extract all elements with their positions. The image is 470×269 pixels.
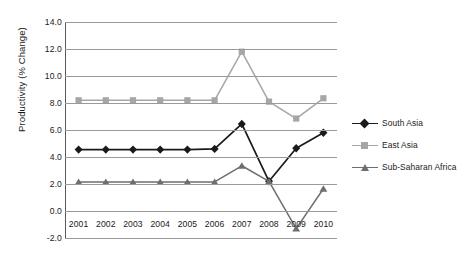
series-east-asia [76,49,327,122]
x-axis-tick-label: 2003 [123,219,143,229]
y-axis-tick-label: -2.0 [28,233,62,243]
legend-item-south-asia[interactable]: South Asia [352,112,470,134]
gridline [65,211,337,212]
x-axis-tick-label: 2005 [178,219,198,229]
y-axis-tick-label: 10.0 [28,71,62,81]
gridline [65,76,337,77]
gridline [65,130,337,131]
gridline [65,103,337,104]
legend: South AsiaEast AsiaSub-Saharan Africa [352,112,470,178]
legend-item-sub-saharan-africa[interactable]: Sub-Saharan Africa [352,156,470,178]
x-axis-tick-label: 2007 [232,219,252,229]
x-axis-tick-label: 2002 [96,219,116,229]
data-point-marker [129,145,137,153]
legend-label: South Asia [382,118,423,128]
gridline [65,184,337,185]
gridline [65,49,337,50]
x-axis-tick-label: 2001 [69,219,89,229]
line-chart: Productivity (% Change) 14.012.010.08.06… [0,0,470,269]
x-axis-tick-label: 2009 [286,219,306,229]
x-axis-tick-label: 2004 [150,219,170,229]
legend-item-east-asia[interactable]: East Asia [352,134,470,156]
data-point-marker [238,162,246,169]
x-axis-tick-label: 2008 [259,219,279,229]
gridline [65,22,337,23]
legend-key-triangle-icon [352,161,378,173]
data-point-marker [320,95,326,101]
x-axis-tick-label: 2010 [314,219,334,229]
data-point-marker [102,145,110,153]
data-point-marker [320,185,328,192]
data-point-marker [156,145,164,153]
y-axis-tick-label: 2.0 [28,179,62,189]
legend-label: East Asia [382,140,418,150]
y-axis-tick-labels: 14.012.010.08.06.04.02.00.0-2.0 [24,0,62,269]
y-axis-tick-label: 0.0 [28,206,62,216]
y-axis-tick-label: 14.0 [28,17,62,27]
legend-label: Sub-Saharan Africa [382,162,456,172]
data-point-marker [75,145,83,153]
series-line [79,52,324,119]
x-axis-tick-label: 2006 [205,219,225,229]
y-axis-tick-label: 6.0 [28,125,62,135]
legend-key-diamond-icon [352,117,378,129]
gridline [65,157,337,158]
series-line [79,124,324,181]
y-axis-tick-label: 8.0 [28,98,62,108]
legend-key-square-icon [352,139,378,151]
data-point-marker [293,115,299,121]
plot-area: 2001200220032004200520062007200820092010 [65,22,337,238]
y-axis-tick-label: 12.0 [28,44,62,54]
data-point-marker [183,145,191,153]
y-axis-tick-label: 4.0 [28,152,62,162]
gridline [65,238,337,239]
